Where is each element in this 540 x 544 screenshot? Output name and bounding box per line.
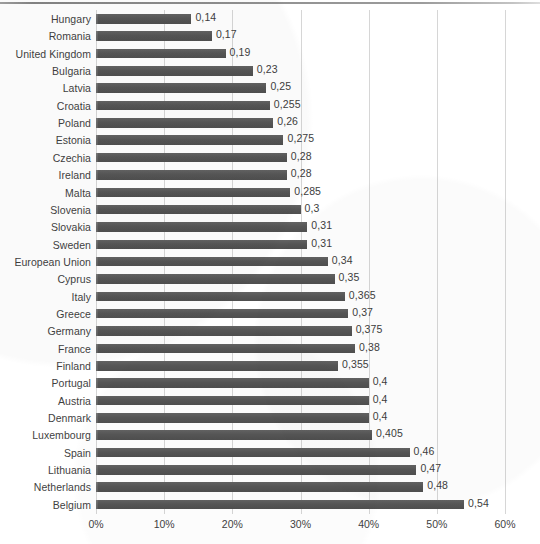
bar-texture bbox=[96, 14, 191, 24]
bar-value-label: 0,23 bbox=[257, 63, 278, 75]
bar-texture bbox=[96, 361, 338, 371]
bar-texture bbox=[96, 448, 410, 458]
bar-texture bbox=[96, 326, 352, 336]
bar-value-label: 0,355 bbox=[342, 358, 369, 370]
bar-value-label: 0,255 bbox=[274, 98, 301, 110]
x-tick-label: 0% bbox=[88, 518, 103, 530]
bar-row: 0,4 bbox=[96, 409, 505, 427]
bar-texture bbox=[96, 49, 226, 59]
bar bbox=[96, 49, 226, 59]
bar-texture bbox=[96, 240, 307, 250]
bar bbox=[96, 31, 212, 41]
bar bbox=[96, 240, 307, 250]
bar-value-label: 0,46 bbox=[414, 445, 435, 457]
bar-texture bbox=[96, 170, 287, 180]
bar-row: 0,28 bbox=[96, 149, 505, 167]
bar bbox=[96, 170, 287, 180]
bar-value-label: 0,37 bbox=[352, 306, 373, 318]
category-label: Slovenia bbox=[0, 201, 91, 219]
category-label: Croatia bbox=[0, 97, 91, 115]
bar-texture bbox=[96, 101, 270, 111]
bar-texture bbox=[96, 257, 328, 267]
category-label: Bulgaria bbox=[0, 62, 91, 80]
bar-row: 0,375 bbox=[96, 322, 505, 340]
bar-value-label: 0,14 bbox=[195, 11, 216, 23]
category-label: Czechia bbox=[0, 149, 91, 167]
bar-value-label: 0,19 bbox=[230, 46, 251, 58]
bar bbox=[96, 101, 270, 111]
category-label: United Kingdom bbox=[0, 45, 91, 63]
category-label: Greece bbox=[0, 305, 91, 323]
category-label: France bbox=[0, 340, 91, 358]
bar bbox=[96, 448, 410, 458]
bar-row: 0,3 bbox=[96, 201, 505, 219]
category-label: Netherlands bbox=[0, 478, 91, 496]
category-label: Portugal bbox=[0, 374, 91, 392]
bar bbox=[96, 83, 266, 93]
x-tick-label: 20% bbox=[222, 518, 243, 530]
bar-texture bbox=[96, 465, 416, 475]
bar-row: 0,54 bbox=[96, 496, 505, 514]
bar bbox=[96, 118, 273, 128]
bar-row: 0,35 bbox=[96, 270, 505, 288]
gridline-60% bbox=[505, 10, 506, 514]
category-label: Austria bbox=[0, 392, 91, 410]
bar-value-label: 0,34 bbox=[332, 254, 353, 266]
bar bbox=[96, 361, 338, 371]
bar-texture bbox=[96, 309, 348, 319]
bar-texture bbox=[96, 222, 307, 232]
category-axis-labels: HungaryRomaniaUnited KingdomBulgariaLatv… bbox=[0, 10, 91, 514]
bar-row: 0,38 bbox=[96, 340, 505, 358]
category-label: Poland bbox=[0, 114, 91, 132]
bar-row: 0,25 bbox=[96, 79, 505, 97]
category-label: Malta bbox=[0, 184, 91, 202]
bar-texture bbox=[96, 482, 423, 492]
bar bbox=[96, 222, 307, 232]
bar-row: 0,48 bbox=[96, 478, 505, 496]
bar-texture bbox=[96, 118, 273, 128]
bar bbox=[96, 188, 290, 198]
bar bbox=[96, 482, 423, 492]
bar-texture bbox=[96, 83, 266, 93]
bar bbox=[96, 14, 191, 24]
bar-value-label: 0,48 bbox=[427, 479, 448, 491]
bar bbox=[96, 430, 372, 440]
bar-value-label: 0,275 bbox=[287, 132, 314, 144]
bar-texture bbox=[96, 66, 253, 76]
bar-value-label: 0,3 bbox=[305, 202, 320, 214]
category-label: Latvia bbox=[0, 79, 91, 97]
bar-value-label: 0,365 bbox=[349, 289, 376, 301]
category-label: Germany bbox=[0, 322, 91, 340]
bar-texture bbox=[96, 500, 464, 510]
bar-value-label: 0,31 bbox=[311, 237, 332, 249]
bar-row: 0,19 bbox=[96, 45, 505, 63]
category-label: Finland bbox=[0, 357, 91, 375]
bar-value-label: 0,4 bbox=[373, 375, 388, 387]
bar-row: 0,14 bbox=[96, 10, 505, 28]
bar-value-label: 0,28 bbox=[291, 150, 312, 162]
bar-texture bbox=[96, 378, 369, 388]
bar bbox=[96, 309, 348, 319]
bar-row: 0,275 bbox=[96, 131, 505, 149]
x-tick-label: 50% bbox=[426, 518, 447, 530]
category-label: Spain bbox=[0, 444, 91, 462]
bar-value-label: 0,4 bbox=[373, 410, 388, 422]
bar-value-label: 0,25 bbox=[270, 80, 291, 92]
bar-row: 0,23 bbox=[96, 62, 505, 80]
category-label: Sweden bbox=[0, 236, 91, 254]
bar-value-label: 0,26 bbox=[277, 115, 298, 127]
bar-row: 0,285 bbox=[96, 184, 505, 202]
category-label: Estonia bbox=[0, 131, 91, 149]
bar bbox=[96, 344, 355, 354]
category-label: Cyprus bbox=[0, 270, 91, 288]
bar-value-label: 0,47 bbox=[420, 462, 441, 474]
bar-row: 0,47 bbox=[96, 461, 505, 479]
bar-texture bbox=[96, 396, 369, 406]
bar-value-label: 0,28 bbox=[291, 167, 312, 179]
bar bbox=[96, 378, 369, 388]
bar-texture bbox=[96, 413, 369, 423]
bar bbox=[96, 396, 369, 406]
category-label: Lithuania bbox=[0, 461, 91, 479]
bar-row: 0,37 bbox=[96, 305, 505, 323]
x-tick-label: 40% bbox=[358, 518, 379, 530]
